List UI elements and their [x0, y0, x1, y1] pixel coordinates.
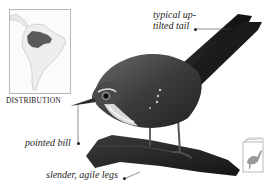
legs-annotation: slender, agile legs — [46, 170, 118, 180]
tail-annotation: typical up- tilted tail — [153, 10, 196, 31]
field-guide-book-icon — [241, 136, 267, 176]
tail-annotation-line2: tilted tail — [153, 21, 196, 31]
species-illustration-page: DISTRIBUTION — [0, 0, 275, 186]
legs-annotation-dot — [123, 177, 126, 180]
bird-body — [70, 54, 202, 128]
tail-annotation-dot — [194, 28, 197, 31]
bill-annotation: pointed bill — [25, 138, 71, 148]
legs-leader-line — [126, 172, 140, 178]
bird-illustration — [0, 0, 275, 186]
bill-annotation-dot — [77, 142, 80, 145]
tail-annotation-line1: typical up- — [153, 10, 196, 20]
